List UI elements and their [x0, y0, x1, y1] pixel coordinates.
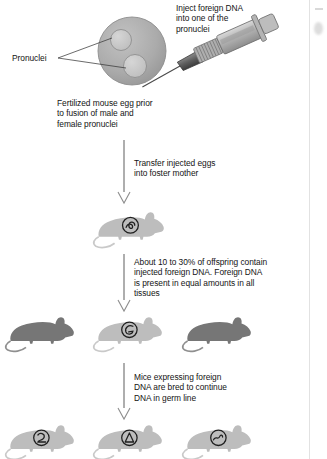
male-pronucleus: [111, 30, 132, 51]
inject-instruction-label: Inject foreign DNA into one of the pronu…: [176, 3, 243, 34]
mouse-germline-left: [6, 425, 74, 459]
mouse-foster-mother: [94, 212, 164, 247]
pronuclei-label: Pronuclei: [12, 53, 46, 63]
fertilized-egg-label: Fertilized mouse egg prior to fusion of …: [57, 98, 153, 129]
mouse-tail: [183, 341, 203, 351]
breeding-step-caption: Mice expressing foreign DNA are bred to …: [134, 372, 227, 403]
mouse-tail: [6, 449, 26, 459]
transgenic-mouse-diagram: Inject foreign DNA into one of the pronu…: [0, 0, 327, 459]
arrow-offspring-head: [118, 300, 130, 311]
arrow-breeding-head: [118, 408, 130, 419]
mouse-tail: [94, 449, 114, 459]
mouse-row-first-generation: [6, 317, 251, 351]
mouse-germline-middle: [94, 425, 162, 459]
fertilized-egg-illustration: [58, 17, 166, 85]
female-pronucleus: [124, 55, 147, 78]
offspring-step-caption: About 10 to 30% of offspring contain inj…: [134, 257, 267, 299]
mouse-tail: [94, 237, 115, 248]
mouse-tail: [94, 341, 114, 351]
page-edge-line: [309, 0, 310, 459]
mouse-offspring-left: [6, 317, 74, 351]
mouse-offspring-right: [183, 317, 251, 351]
arrow-breeding: [118, 363, 130, 419]
mouse-germline-right: [183, 425, 251, 459]
mouse-row-germ-line: [6, 425, 251, 459]
transfer-step-caption: Transfer injected eggs into foster mothe…: [134, 158, 215, 179]
scan-artifact-tick: [315, 8, 323, 10]
mouse-row-foster-mother: [94, 212, 164, 247]
arrow-offspring: [118, 254, 130, 311]
mouse-tail: [183, 449, 203, 459]
mouse-offspring-middle: [94, 317, 162, 351]
mouse-tail: [6, 341, 26, 351]
scan-artifact-blob: [314, 22, 323, 35]
arrow-transfer: [118, 140, 130, 203]
arrow-transfer-head: [118, 192, 130, 203]
